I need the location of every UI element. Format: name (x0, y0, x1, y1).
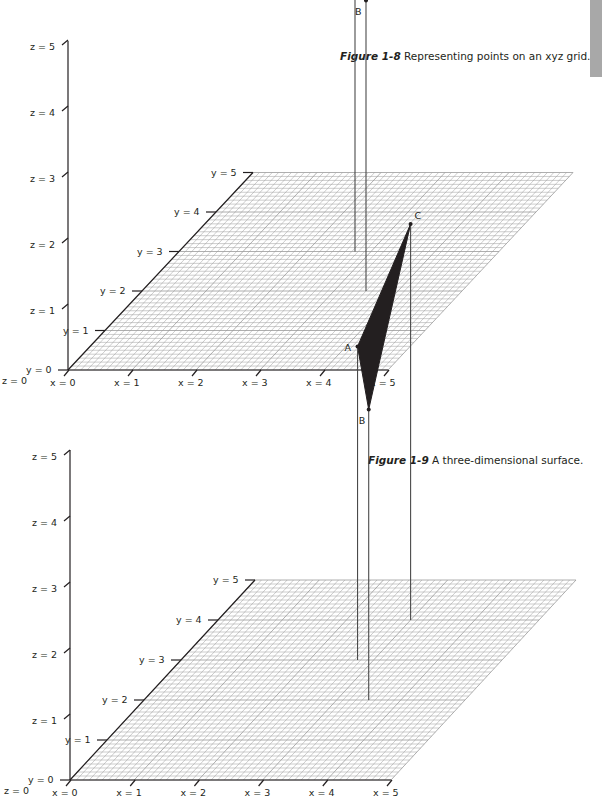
x-tick (128, 370, 133, 376)
x-tick-label: x = 1 (114, 377, 140, 388)
z-tick-label: z = 3 (30, 173, 55, 184)
z-tick-label: z = 1 (32, 715, 57, 726)
x-tick-label: x = 4 (306, 377, 332, 388)
x-tick (387, 780, 392, 786)
x-tick-label: x = 5 (373, 787, 399, 798)
x-tick (64, 370, 69, 376)
z-tick-label: z = 4 (32, 517, 57, 528)
point-label: A (345, 342, 352, 353)
xy-grid (68, 173, 573, 371)
x-tick (256, 370, 261, 376)
x-tick-label: x = 2 (178, 377, 204, 388)
z-tick-label: z = 1 (30, 305, 55, 316)
z-tick-label: z = 0 (4, 785, 29, 796)
y-tick-label: y = 1 (63, 325, 89, 336)
z-tick-label: z = 5 (32, 451, 57, 462)
z-tick (62, 172, 68, 177)
point-label: B (359, 415, 366, 426)
x-tick-label: x = 1 (116, 787, 142, 798)
point-marker (364, 0, 368, 3)
y-tick-label: y = 4 (176, 614, 202, 625)
y-tick-label: y = 0 (26, 364, 52, 375)
z-tick (62, 238, 68, 243)
z-tick (64, 714, 70, 719)
y-tick-label: y = 5 (211, 167, 237, 178)
x-tick (384, 370, 389, 376)
z-tick (62, 106, 68, 111)
z-tick (64, 516, 70, 521)
y-tick-label: y = 2 (102, 694, 128, 705)
y-tick-label: y = 2 (100, 285, 126, 296)
x-tick-label: x = 2 (180, 787, 206, 798)
z-tick (62, 40, 68, 45)
point-marker (367, 408, 371, 412)
x-tick-label: x = 0 (52, 787, 78, 798)
y-tick-label: y = 5 (213, 574, 239, 585)
y-tick-label: y = 4 (174, 206, 200, 217)
y-tick-label: y = 1 (65, 734, 91, 745)
y-tick-label: y = 3 (137, 246, 163, 257)
y-tick-label: y = 0 (28, 774, 54, 785)
x-tick-label: x = 0 (50, 377, 76, 388)
point-marker (356, 345, 360, 349)
point-label: B (355, 6, 362, 17)
x-tick (320, 370, 325, 376)
x-tick (323, 780, 328, 786)
z-tick-label: z = 5 (30, 41, 55, 52)
x-tick (130, 780, 135, 786)
x-tick (194, 780, 199, 786)
z-tick-label: z = 3 (32, 583, 57, 594)
z-tick (64, 648, 70, 653)
point-label: C (415, 210, 422, 221)
z-tick-label: z = 2 (32, 649, 57, 660)
y-tick-label: y = 3 (139, 654, 165, 665)
z-tick-label: z = 2 (30, 239, 55, 250)
point-marker (409, 222, 413, 226)
z-tick (64, 450, 70, 455)
figures-canvas: x = 0y = 0z = 0x = 1y = 1z = 1x = 2y = 2… (0, 0, 602, 811)
z-tick-label: z = 0 (2, 375, 27, 386)
fig-1-8-diagram: x = 0y = 0z = 0x = 1y = 1z = 1x = 2y = 2… (2, 0, 573, 388)
xy-grid (70, 580, 576, 780)
x-tick-label: x = 4 (309, 787, 335, 798)
z-tick (62, 304, 68, 309)
x-tick-label: x = 3 (245, 787, 271, 798)
x-tick (259, 780, 264, 786)
x-tick (66, 780, 71, 786)
x-tick (192, 370, 197, 376)
fig-1-9-diagram: x = 0y = 0z = 0x = 1y = 1z = 1x = 2y = 2… (4, 210, 576, 798)
z-tick (64, 582, 70, 587)
z-tick-label: z = 4 (30, 107, 55, 118)
x-tick-label: x = 3 (242, 377, 268, 388)
